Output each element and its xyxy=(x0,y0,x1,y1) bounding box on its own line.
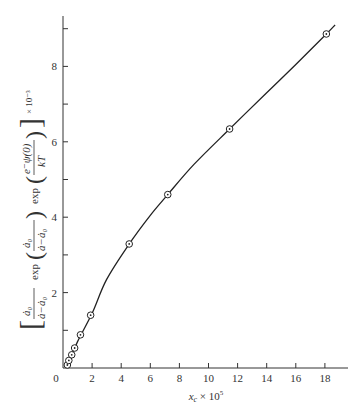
x-tick-label: 18 xyxy=(319,372,331,384)
bracket-open: [ xyxy=(13,320,46,330)
paren1-open: ( xyxy=(21,252,47,260)
y-tick-label: 6 xyxy=(52,136,58,148)
data-point-marker xyxy=(164,191,171,198)
x-axis-title: xc × 105 xyxy=(188,389,224,404)
data-point-marker xyxy=(87,312,94,319)
fit-curve xyxy=(66,25,335,367)
data-point-marker xyxy=(226,126,233,133)
x-tick-label: 2 xyxy=(89,372,95,384)
x-tick-label: 8 xyxy=(177,372,183,384)
x-tick-label: 4 xyxy=(118,372,124,384)
data-markers xyxy=(64,31,330,369)
frac1-num: ȧ₀ xyxy=(20,307,32,317)
x-tick-label: 12 xyxy=(232,372,243,384)
y-tick-label: 4 xyxy=(52,211,58,223)
exp2: exp xyxy=(28,188,40,204)
chart: 024681012141618 2468 xc × 105 [ ȧ₀ ȧ−ȧ₀ … xyxy=(0,0,362,412)
paren2-close: ) xyxy=(21,131,47,139)
frac3-num: e⁻ψ(0) xyxy=(20,143,33,174)
scale-factor: × 10⁻³ xyxy=(24,90,34,114)
paren2-open: ( xyxy=(21,176,47,184)
frac2-num: ȧ₀ xyxy=(20,239,32,249)
y-ticks: 2468 xyxy=(52,29,69,331)
data-point-marker xyxy=(126,241,133,248)
x-tick-label: 14 xyxy=(261,372,273,384)
y-tick-label: 8 xyxy=(52,60,58,72)
data-point-marker xyxy=(77,332,84,339)
y-tick-label: 2 xyxy=(52,287,58,299)
x-tick-label: 10 xyxy=(203,372,215,384)
bracket-close: ] xyxy=(13,118,46,128)
frac2-den: ȧ−ȧ₀ xyxy=(35,229,47,251)
exp1: exp xyxy=(28,264,40,280)
axes: 024681012141618 2468 xyxy=(52,16,349,384)
frac3-den: kT xyxy=(35,155,47,167)
paren1-close: ) xyxy=(21,211,47,219)
x-ticks: 024681012141618 xyxy=(53,363,331,384)
y-axis-title: [ ȧ₀ ȧ−ȧ₀ exp ( ȧ₀ ȧ−ȧ₀ ) exp ( e⁻ψ(0) k… xyxy=(13,90,47,330)
x-tick-label: 16 xyxy=(290,372,302,384)
data-point-marker xyxy=(68,352,75,359)
data-point-marker xyxy=(71,345,78,352)
data-point-marker xyxy=(323,31,330,38)
frac1-den: ȧ−ȧ₀ xyxy=(35,297,47,319)
x-tick-label: 6 xyxy=(148,372,154,384)
x-tick-label: 0 xyxy=(53,372,59,384)
